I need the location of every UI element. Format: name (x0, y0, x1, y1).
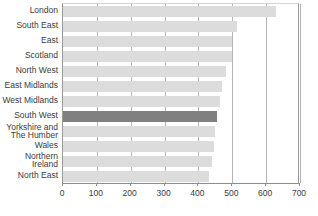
x-tick-400 (197, 183, 198, 186)
bar-rows (63, 4, 298, 183)
x-tick-0 (62, 183, 63, 186)
bar (63, 66, 226, 77)
bar (63, 156, 212, 167)
x-axis-line (62, 183, 299, 184)
bar-row (63, 64, 298, 79)
plot-area (62, 3, 299, 183)
bar (63, 51, 232, 62)
x-tick-label: 500 (224, 188, 238, 198)
x-tick-label: 200 (123, 188, 137, 198)
x-tick-label: 700 (292, 188, 306, 198)
x-tick-label: 300 (156, 188, 170, 198)
bar (63, 81, 222, 92)
bar-row (63, 19, 298, 34)
x-tick-600 (265, 183, 266, 186)
x-tick-label: 400 (190, 188, 204, 198)
x-tick-300 (164, 183, 165, 186)
category-label: London (0, 3, 58, 18)
bar-highlighted (63, 111, 217, 122)
category-label: North West (0, 63, 58, 78)
bar (63, 6, 276, 17)
x-tick-200 (130, 183, 131, 186)
category-label: Scotland (0, 48, 58, 63)
bar-row (63, 49, 298, 64)
bar (63, 96, 220, 107)
category-label: East (0, 33, 58, 48)
bar-row (63, 139, 298, 154)
bar-row (63, 109, 298, 124)
category-axis-labels: LondonSouth EastEastScotlandNorth WestEa… (0, 3, 58, 183)
bar-row (63, 94, 298, 109)
bar-row (63, 154, 298, 169)
bar (63, 36, 232, 47)
gridline-700 (300, 4, 301, 183)
bar (63, 21, 237, 32)
x-tick-label: 600 (258, 188, 272, 198)
category-label: North East (0, 168, 58, 183)
category-label: East Midlands (0, 78, 58, 93)
x-tick-label: 0 (60, 188, 65, 198)
category-label: West Midlands (0, 93, 58, 108)
category-label: Yorkshire and The Humber (0, 123, 58, 138)
x-tick-label: 100 (89, 188, 103, 198)
category-label: South West (0, 108, 58, 123)
bar-row (63, 169, 298, 184)
bar-row (63, 124, 298, 139)
bar-row (63, 34, 298, 49)
category-label: Northern Ireland (0, 153, 58, 168)
bar (63, 141, 214, 152)
bar-row (63, 79, 298, 94)
category-label: South East (0, 18, 58, 33)
bar-chart: LondonSouth EastEastScotlandNorth WestEa… (0, 0, 318, 216)
x-tick-700 (299, 183, 300, 186)
bar (63, 126, 215, 137)
bar (63, 171, 209, 182)
bar-row (63, 4, 298, 19)
x-tick-100 (96, 183, 97, 186)
x-tick-500 (231, 183, 232, 186)
